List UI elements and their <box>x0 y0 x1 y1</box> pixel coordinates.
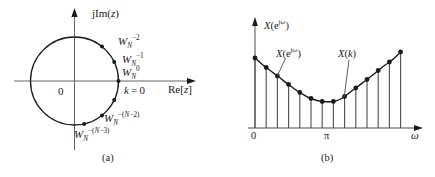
annotation-dtft-label: X(ejω) <box>276 47 301 59</box>
stem-group <box>255 52 401 128</box>
sample-marker-11 <box>376 68 381 73</box>
panel-b-spectrum: X(ejω) ω 0 π X(ejω) X(k) (b) <box>218 0 435 177</box>
sample-marker-10 <box>365 77 370 82</box>
panel-a-unit-circle: jIm(z) Re[z] 0 k = 0 WN−2 WN−1 WN0 WN−(N… <box>0 0 218 177</box>
sample-point-k0 <box>117 79 121 83</box>
x-tick-label-zero: 0 <box>251 131 256 142</box>
figure-container: jIm(z) Re[z] 0 k = 0 WN−2 WN−1 WN0 WN−(N… <box>0 0 435 177</box>
real-axis-label: Re[z] <box>168 84 192 95</box>
point-label-wn-zero: WN0 <box>122 66 140 81</box>
origin-label: 0 <box>58 86 64 97</box>
k-equals-zero-label: k = 0 <box>124 85 145 96</box>
y-axis-label: X(ejω) <box>264 19 289 31</box>
sample-point-k1 <box>112 60 116 64</box>
point-label-wn-minus2: WN−2 <box>118 35 140 50</box>
leader-line-dft <box>344 60 349 97</box>
sample-marker-0 <box>253 56 258 61</box>
x-axis-label: ω <box>411 130 419 141</box>
point-label-wn-minus-n-2: WN−(N−2) <box>104 112 140 127</box>
point-label-wn-minus-n-3: WN−(N−3) <box>74 128 110 143</box>
sample-marker-3 <box>286 82 291 87</box>
sample-marker-1 <box>264 65 269 70</box>
y-axis-arrow-icon <box>252 17 258 26</box>
sample-point-kN3 <box>82 122 86 126</box>
imaginary-axis-arrow-icon <box>71 8 77 17</box>
imaginary-axis-label: jIm(z) <box>92 8 119 19</box>
sample-marker-7 <box>331 99 336 104</box>
panel-b-caption: (b) <box>321 152 333 163</box>
sample-marker-6 <box>320 99 325 104</box>
sample-marker-5 <box>309 96 314 101</box>
leader-line-dtft <box>277 59 286 77</box>
sample-marker-12 <box>387 60 392 65</box>
sample-marker-4 <box>297 90 302 95</box>
sample-point-kN1 <box>112 98 116 102</box>
sample-point-k2 <box>100 45 104 49</box>
x-tick-label-pi: π <box>324 131 329 142</box>
sample-marker-9 <box>353 86 358 91</box>
annotation-dft-label: X(k) <box>338 49 356 60</box>
sample-marker-13 <box>398 50 403 55</box>
panel-a-caption: (a) <box>102 152 114 163</box>
